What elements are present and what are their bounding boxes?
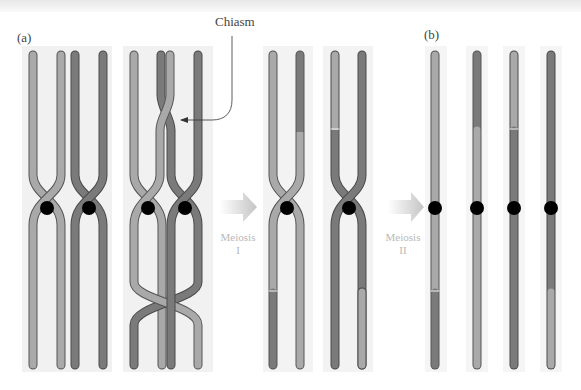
centromere-dot xyxy=(507,201,521,215)
centromere-dot xyxy=(544,201,558,215)
meiosis-i-label-line2: I xyxy=(216,244,260,257)
centromere-dot xyxy=(82,201,96,215)
panel-b-label: (b) xyxy=(424,27,439,43)
centromere-dot xyxy=(428,201,442,215)
centromere-dot xyxy=(40,201,54,215)
panel-a-label: (a) xyxy=(17,30,31,46)
panel-b-chromatids xyxy=(435,55,551,365)
centromere-dot xyxy=(470,201,484,215)
centromere-dot xyxy=(141,201,155,215)
centromere-dot xyxy=(280,201,294,215)
meiosis-diagram xyxy=(0,0,581,390)
centromere-dot xyxy=(178,201,192,215)
meiosis-ii-label-line2: II xyxy=(381,244,425,257)
meiosis-i-arrow-icon xyxy=(220,192,257,222)
meiosis-ii-label: Meiosis II xyxy=(381,231,425,257)
meiosis-i-label-line1: Meiosis xyxy=(216,231,260,244)
chiasm-label: Chiasm xyxy=(215,14,255,30)
meiosis-ii-arrow-icon xyxy=(388,192,424,222)
meiosis-ii-label-line1: Meiosis xyxy=(381,231,425,244)
centromere-dot xyxy=(342,201,356,215)
meiosis-i-label: Meiosis I xyxy=(216,231,260,257)
